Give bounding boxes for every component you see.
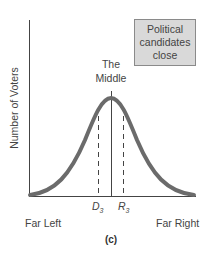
r3-label: R3 [118, 200, 130, 214]
middle-label-line-1: The [86, 57, 136, 71]
figure-caption: (c) [96, 234, 126, 245]
d3-subscript: 3 [100, 207, 104, 214]
annotation-box-text: Political candidates close [137, 23, 193, 62]
d3-letter: D [92, 200, 100, 212]
r3-letter: R [118, 200, 126, 212]
y-axis-label: Number of Voters [8, 58, 20, 158]
far-right-label: Far Right [156, 217, 199, 229]
annotation-box: Political candidates close [134, 19, 196, 66]
r3-subscript: 3 [126, 207, 130, 214]
middle-label-line-2: Middle [86, 71, 136, 85]
d3-label: D3 [92, 200, 104, 214]
middle-label: The Middle [86, 57, 136, 85]
far-left-label: Far Left [25, 217, 61, 229]
